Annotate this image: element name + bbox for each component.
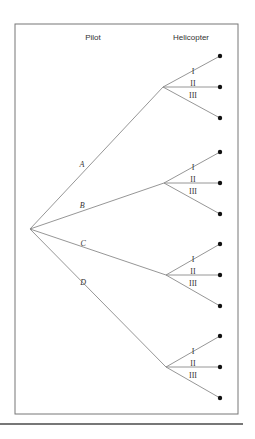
figure-frame (15, 24, 238, 414)
leaf-node (218, 273, 222, 277)
leaf-node (218, 365, 222, 369)
helicopter-label: III (189, 91, 197, 100)
leaf-node (218, 54, 222, 58)
bottom-rule (0, 423, 243, 425)
leaf-node (218, 334, 222, 338)
helicopter-label: II (190, 175, 196, 184)
helicopter-label: II (190, 79, 196, 88)
leaf-node (218, 212, 222, 216)
pilot-branch-b (30, 183, 164, 229)
helicopter-label: I (192, 347, 195, 356)
leaf-node (218, 242, 222, 246)
leaf-node (218, 181, 222, 185)
helicopter-label: III (189, 279, 197, 288)
pilot-label-a: A (78, 160, 84, 169)
pilot-label-b: B (80, 201, 85, 210)
helicopter-label: I (192, 67, 195, 76)
leaf-node (218, 304, 222, 308)
helicopter-label: II (190, 359, 196, 368)
pilot-branch-c (30, 229, 166, 275)
helicopter-label: III (189, 371, 197, 380)
leaf-node (218, 85, 222, 89)
tree-diagram: Pilot Helicopter AIIIIIIBIIIIIICIIIIIIDI… (0, 0, 255, 439)
helicopter-label: II (190, 267, 196, 276)
leaf-node (218, 150, 222, 154)
leaf-node (218, 396, 222, 400)
pilot-header: Pilot (85, 33, 101, 42)
pilot-label-c: C (80, 239, 86, 248)
helicopter-label: I (192, 255, 195, 264)
tree-branches: AIIIIIIBIIIIIICIIIIIIDIIIIII (30, 54, 222, 400)
pilot-branch-d (30, 229, 166, 367)
helicopter-label: I (192, 163, 195, 172)
helicopter-header: Helicopter (173, 33, 209, 42)
pilot-branch-a (30, 87, 163, 229)
helicopter-label: III (189, 187, 197, 196)
pilot-label-d: D (79, 278, 86, 287)
leaf-node (218, 116, 222, 120)
